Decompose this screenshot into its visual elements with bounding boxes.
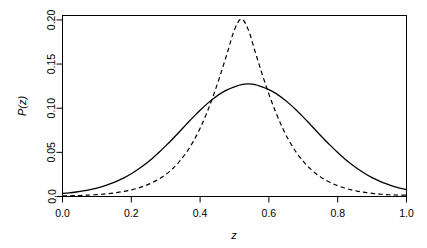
x-tick-label: 0.8 — [330, 207, 345, 219]
x-tick-label: 0.4 — [193, 207, 208, 219]
plot-area: 0.00.20.40.60.81.0 0.00.050.100.150.20 z… — [0, 0, 427, 248]
y-tick-label: 0.0 — [46, 189, 58, 204]
x-tick-label: 0.2 — [124, 207, 139, 219]
figure-container: 0.00.20.40.60.81.0 0.00.050.100.150.20 z… — [0, 0, 427, 248]
x-tick-label: 1.0 — [399, 207, 414, 219]
y-tick-label: 0.20 — [46, 10, 58, 31]
x-axis-title: z — [230, 229, 237, 241]
y-axis-title: P(z) — [16, 96, 28, 117]
y-tick-label: 0.10 — [46, 98, 58, 119]
x-tick-label: 0.0 — [55, 207, 70, 219]
x-tick-label: 0.6 — [262, 207, 277, 219]
y-tick-label: 0.15 — [46, 54, 58, 75]
y-tick-label: 0.05 — [46, 142, 58, 163]
